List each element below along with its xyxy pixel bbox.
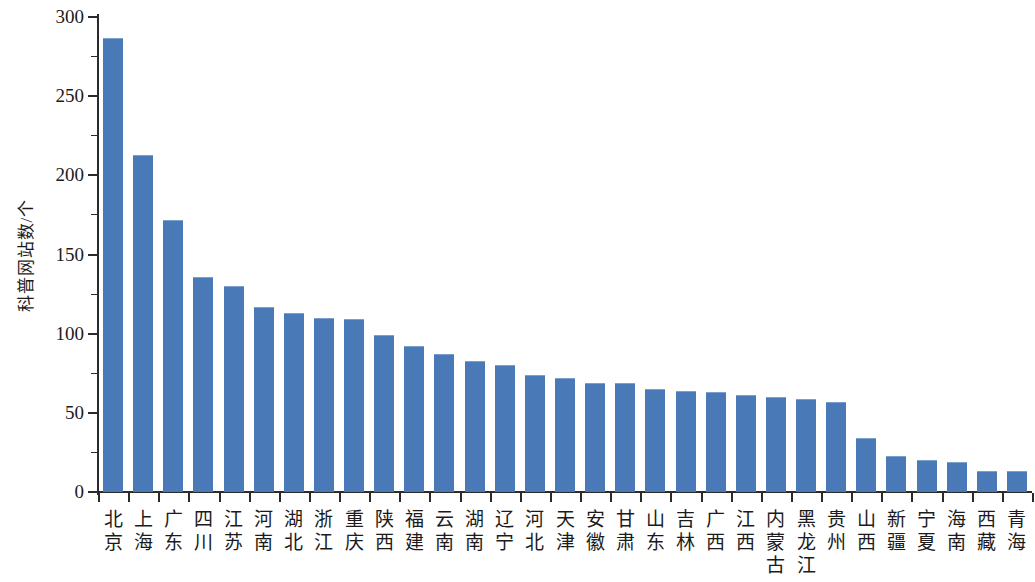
x-tick-label-char: 藏 [972,531,1002,554]
x-tick-label-char: 西 [851,531,881,554]
x-tick-label: 河南 [249,508,279,554]
x-tick [911,493,913,502]
bar [314,318,334,492]
x-tick-label: 上海 [128,508,158,554]
x-tick [249,493,251,502]
x-tick [670,493,672,502]
x-tick-label: 湖北 [279,508,309,554]
x-tick-label-char: 天 [550,508,580,531]
x-tick [731,493,733,502]
x-tick-label: 陕西 [369,508,399,554]
x-tick-label-char: 江 [791,554,821,577]
bar-chart: 科普网站数/个 300250200150100500 北京上海广东四川江苏河南湖… [0,0,1035,582]
x-tick-label-char: 疆 [881,531,911,554]
x-tick-label: 新疆 [881,508,911,554]
x-tick-label-char: 黑 [791,508,821,531]
x-tick-label-char: 山 [640,508,670,531]
x-tick-label-char: 津 [550,531,580,554]
x-tick [881,493,883,502]
bar [254,307,274,492]
x-tick-label: 云南 [429,508,459,554]
y-tick-minor [91,373,98,374]
x-tick-label: 西藏 [972,508,1002,554]
x-tick-label-char: 浙 [309,508,339,531]
x-tick [942,493,944,502]
y-tick-label: 250 [22,86,84,105]
x-tick-label-char: 云 [429,508,459,531]
x-tick [580,493,582,502]
x-tick-label: 天津 [550,508,580,554]
x-tick-label-char: 建 [399,531,429,554]
bar [284,313,304,492]
x-tick [369,493,371,502]
x-tick [429,493,431,502]
x-tick-label-char: 南 [249,531,279,554]
x-tick-label-char: 南 [429,531,459,554]
x-tick [460,493,462,502]
x-tick-label-char: 新 [881,508,911,531]
x-tick [610,493,612,502]
x-tick-label: 江西 [731,508,761,554]
x-tick-label-char: 林 [671,531,701,554]
x-tick-label: 海南 [942,508,972,554]
x-tick-label-char: 重 [339,508,369,531]
bar [555,378,575,492]
x-tick-label-char: 西 [972,508,1002,531]
x-tick [701,493,703,502]
y-tick [88,491,98,493]
bar [947,462,967,492]
x-tick [279,493,281,502]
x-tick [128,493,130,502]
y-tick-minor [91,294,98,295]
bar [856,438,876,492]
bar [193,277,213,492]
bar [465,361,485,492]
x-tick [158,493,160,502]
y-tick-label: 150 [22,245,84,264]
x-tick-label-char: 龙 [791,531,821,554]
bar [706,392,726,492]
x-tick [309,493,311,502]
y-tick-minor [91,56,98,57]
x-tick-label-char: 宁 [490,531,520,554]
bar [133,155,153,492]
bar [917,460,937,492]
x-tick [972,493,974,502]
x-tick-label-char: 川 [188,531,218,554]
x-tick-label: 湖南 [460,508,490,554]
y-tick [88,95,98,97]
y-tick-minor [91,135,98,136]
y-tick [88,174,98,176]
y-tick [88,412,98,414]
x-tick-label-char: 辽 [490,508,520,531]
x-tick-label: 广西 [701,508,731,554]
x-tick [791,493,793,502]
x-tick-label-char: 古 [761,554,791,577]
bar [886,456,906,492]
bar [766,397,786,492]
y-tick-label: 0 [22,482,84,501]
x-tick [851,493,853,502]
bar [434,354,454,492]
x-tick-label: 青海 [1002,508,1032,554]
x-tick [1002,493,1004,502]
x-tick-label-char: 陕 [369,508,399,531]
y-tick-minor [91,214,98,215]
plot-area [98,17,1030,492]
x-tick-label: 甘肃 [610,508,640,554]
x-tick-label-char: 夏 [912,531,942,554]
x-tick-label-char: 海 [1002,531,1032,554]
x-tick-label-char: 徽 [580,531,610,554]
y-tick-label: 300 [22,7,84,26]
x-tick-label: 浙江 [309,508,339,554]
x-tick-label: 黑龙江 [791,508,821,577]
x-tick-label-char: 西 [369,531,399,554]
x-tick-label-char: 西 [701,531,731,554]
x-tick-label-char: 四 [188,508,218,531]
x-tick-label-char: 庆 [339,531,369,554]
x-tick-label-char: 江 [731,508,761,531]
x-tick [98,493,100,502]
x-tick-label-char: 甘 [610,508,640,531]
x-tick-label-char: 肃 [610,531,640,554]
x-tick-label-char: 北 [279,531,309,554]
